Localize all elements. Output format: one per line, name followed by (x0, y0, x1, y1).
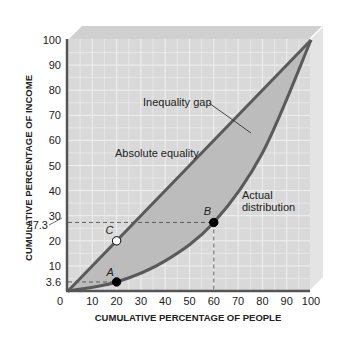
y-tick-10: 10 (49, 260, 61, 272)
annotation-actual: Actual (242, 189, 273, 201)
x-tick-100: 100 (302, 295, 320, 307)
x-tick-30: 30 (135, 295, 147, 307)
y-tick-100: 100 (43, 34, 61, 46)
point-label-c: C (106, 224, 114, 236)
lorenz-curve-chart: ABC 0102030405060708090100 1020304050607… (0, 0, 340, 341)
x-tick-10: 10 (86, 295, 98, 307)
box-side-face (310, 26, 323, 290)
y-axis-title: CUMULATIVE PERCENTAGE OF INCOME (23, 75, 34, 261)
point-label-a: A (106, 266, 114, 278)
x-tick-70: 70 (232, 295, 244, 307)
x-tick-80: 80 (256, 295, 268, 307)
annotation-absolute-equality: Absolute equality (115, 147, 199, 159)
y-tick-60: 60 (49, 134, 61, 146)
x-tick-0: 0 (57, 295, 63, 307)
y-tick-3.6: 3.6 (46, 276, 61, 288)
y-tick-80: 80 (49, 84, 61, 96)
box-top-face (69, 26, 323, 39)
point-label-b: B (204, 205, 211, 217)
x-tick-60: 60 (208, 295, 220, 307)
x-tick-20: 20 (110, 295, 122, 307)
y-tick-90: 90 (49, 59, 61, 71)
point-a (112, 278, 120, 286)
y-tick-40: 40 (49, 185, 61, 197)
x-tick-40: 40 (159, 295, 171, 307)
point-b (210, 218, 218, 226)
x-tick-labels: 0102030405060708090100 (57, 295, 320, 307)
y-tick-20: 20 (49, 235, 61, 247)
annotation-inequality-gap: Inequality gap (143, 96, 212, 108)
point-c (112, 237, 120, 245)
annotation-distribution: distribution (242, 201, 295, 213)
x-tick-50: 50 (183, 295, 195, 307)
x-tick-90: 90 (281, 295, 293, 307)
x-axis-title: CUMULATIVE PERCENTAGE OF PEOPLE (95, 312, 282, 323)
y-tick-50: 50 (49, 160, 61, 172)
y-tick-70: 70 (49, 109, 61, 121)
